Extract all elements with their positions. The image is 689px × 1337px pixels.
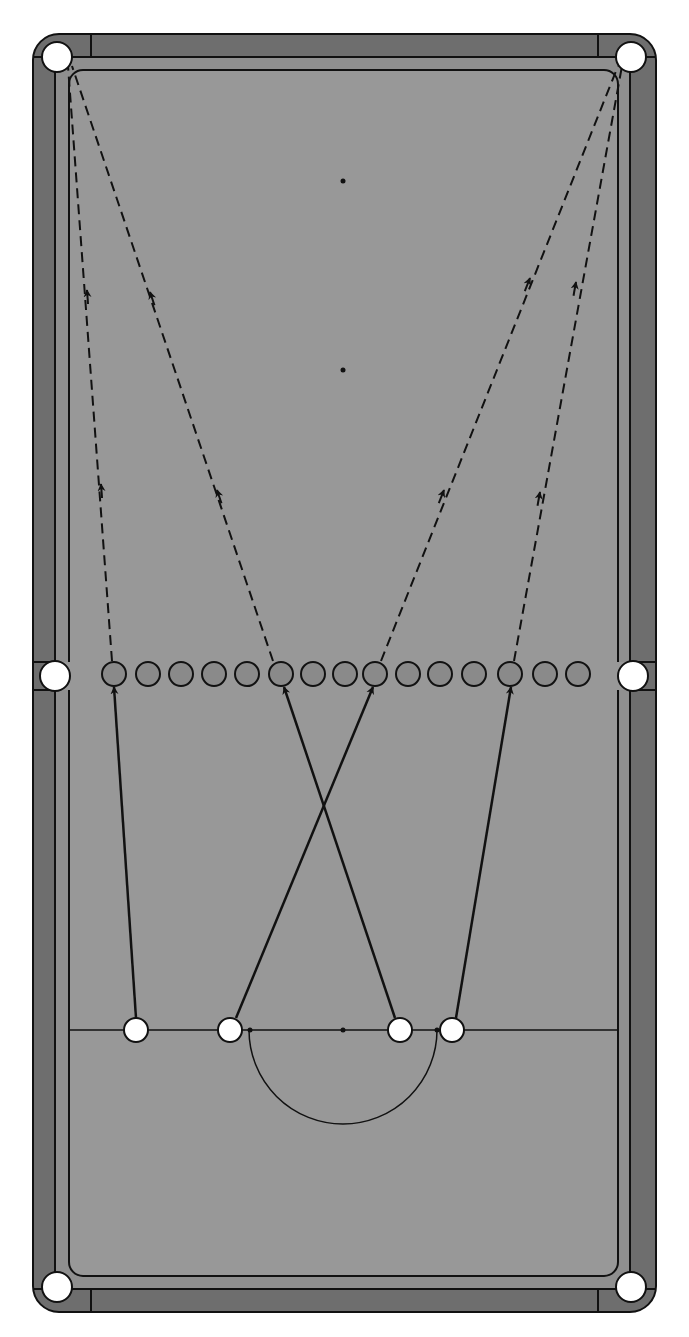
brown-spot <box>341 1028 346 1033</box>
green-spot <box>435 1028 440 1033</box>
cue-ball <box>440 1018 464 1042</box>
middle-left-pocket <box>40 661 70 691</box>
object-ball <box>428 662 452 686</box>
cue-ball <box>218 1018 242 1042</box>
top-left-pocket <box>42 42 72 72</box>
object-ball <box>396 662 420 686</box>
bottom-right-pocket <box>616 1272 646 1302</box>
bottom-left-pocket <box>42 1272 72 1302</box>
object-ball <box>498 662 522 686</box>
object-ball <box>363 662 387 686</box>
snooker-diagram <box>0 0 689 1337</box>
object-ball <box>462 662 486 686</box>
middle-right-pocket <box>618 661 648 691</box>
direction-arrow-icon <box>87 290 88 304</box>
object-ball <box>533 662 557 686</box>
object-ball <box>235 662 259 686</box>
object-ball <box>136 662 160 686</box>
direction-arrow-icon <box>101 484 102 498</box>
object-ball <box>269 662 293 686</box>
pink-spot <box>341 368 346 373</box>
cue-ball <box>388 1018 412 1042</box>
object-ball <box>102 662 126 686</box>
object-ball <box>333 662 357 686</box>
table-canvas <box>0 0 689 1337</box>
object-ball <box>169 662 193 686</box>
object-ball <box>301 662 325 686</box>
black-spot <box>341 179 346 184</box>
object-ball <box>566 662 590 686</box>
cue-ball <box>124 1018 148 1042</box>
object-ball <box>202 662 226 686</box>
top-right-pocket <box>616 42 646 72</box>
yellow-spot <box>248 1028 253 1033</box>
